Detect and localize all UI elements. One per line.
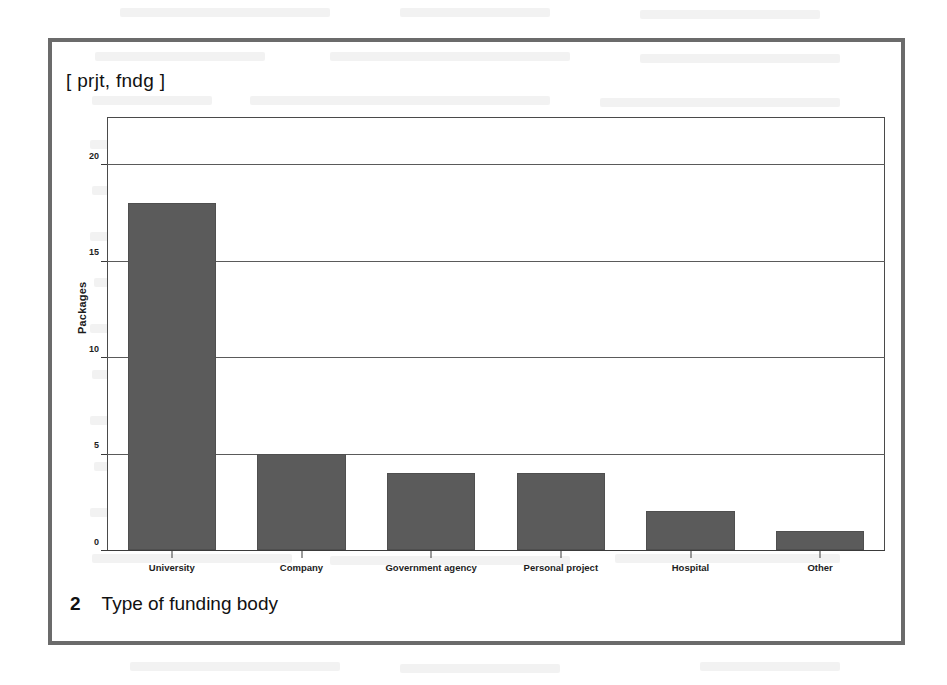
x-tick-mark-5 (820, 551, 821, 558)
bar-government-agency (387, 473, 475, 550)
x-tick-mark-1 (301, 551, 302, 558)
x-tick-label-university: University (149, 562, 195, 573)
plot-frame (107, 117, 885, 551)
x-tick-mark-0 (171, 551, 172, 558)
y-tick-label-5: 5 (94, 440, 99, 450)
gridline-15 (107, 261, 885, 262)
x-tick-label-other: Other (807, 562, 832, 573)
plot-area: 05101520 UniversityCompanyGovernment age… (107, 117, 885, 551)
y-tick-mark-20 (101, 164, 107, 165)
x-tick-mark-2 (431, 551, 432, 558)
bar-university (128, 203, 216, 550)
x-tick-label-personal-project: Personal project (524, 562, 598, 573)
bar-personal-project (517, 473, 605, 550)
bar-company (257, 454, 345, 550)
y-tick-mark-5 (101, 454, 107, 455)
bar-other (776, 531, 864, 550)
figure-caption-number: 2 (70, 593, 81, 614)
y-tick-label-10: 10 (89, 344, 99, 354)
x-tick-mark-3 (560, 551, 561, 558)
bar-hospital (646, 511, 734, 550)
y-tick-label-20: 20 (89, 151, 99, 161)
x-tick-label-hospital: Hospital (672, 562, 709, 573)
chart-title: [ prjt, fndg ] (66, 70, 165, 92)
x-tick-label-government-agency: Government agency (385, 562, 476, 573)
y-tick-label-15: 15 (89, 247, 99, 257)
y-tick-label-0: 0 (94, 537, 99, 547)
x-axis-line (107, 550, 885, 551)
y-tick-mark-10 (101, 357, 107, 358)
x-tick-mark-4 (690, 551, 691, 558)
gridline-20 (107, 164, 885, 165)
gridline-10 (107, 357, 885, 358)
figure-caption-text: Type of funding body (102, 593, 278, 614)
gridline-5 (107, 454, 885, 455)
x-tick-label-company: Company (280, 562, 323, 573)
y-tick-mark-0 (101, 550, 107, 551)
figure-caption: 2Type of funding body (70, 593, 278, 615)
y-axis-label: Packages (76, 282, 88, 334)
y-tick-mark-15 (101, 261, 107, 262)
